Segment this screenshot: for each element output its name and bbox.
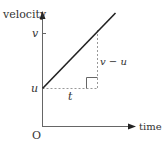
right-angle-marker xyxy=(87,78,98,89)
tick-label-v: v xyxy=(32,27,39,40)
velocity-line xyxy=(43,13,116,89)
run-label: t xyxy=(68,90,73,103)
x-axis xyxy=(43,124,137,130)
rise-label: v − u xyxy=(100,56,127,67)
velocity-time-diagram: velocity time O v u v − u t xyxy=(0,0,167,145)
x-axis-arrow-icon xyxy=(128,124,136,130)
y-axis xyxy=(40,11,46,127)
x-axis-label: time xyxy=(139,121,162,132)
origin-label: O xyxy=(32,129,41,142)
tick-label-u: u xyxy=(31,82,38,95)
y-axis-label: velocity xyxy=(2,8,47,21)
